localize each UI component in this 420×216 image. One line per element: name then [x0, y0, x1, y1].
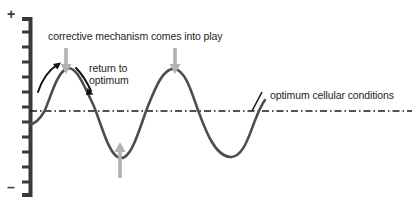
homeostasis-diagram: + – corrective mechanism comes into play… [0, 0, 420, 216]
oscillation-curve [30, 68, 265, 158]
label-return-line1: return to [89, 62, 127, 74]
axis-minus-sign: – [7, 180, 15, 196]
axis-plus-sign: + [7, 7, 15, 23]
label-return-to-optimum: return to optimum [89, 63, 129, 87]
down-arrow-crest-1 [61, 48, 72, 74]
up-arrow-trough-1 [115, 142, 126, 178]
label-corrective-mechanism: corrective mechanism comes into play [48, 31, 222, 43]
label-return-line2: optimum [89, 75, 129, 87]
label-optimum-cellular-conditions: optimum cellular conditions [270, 90, 394, 102]
vertical-axis-group [22, 17, 31, 197]
